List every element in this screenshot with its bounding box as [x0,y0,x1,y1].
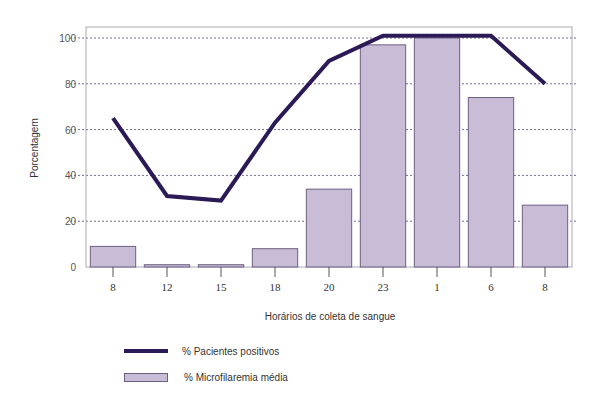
bar [414,38,459,267]
combo-chart: 020406080100 81215182023168 Porcentagem … [0,0,602,330]
y-tick-label: 100 [59,33,76,44]
bar [90,246,135,267]
bar-series [90,38,567,267]
bar [198,265,243,267]
x-axis-title: Horários de coleta de sangue [265,311,396,322]
x-tick-label: 8 [110,281,116,293]
legend-line-label: % Pacientes positivos [182,346,279,357]
y-axis-title: Porcentagem [29,118,40,177]
bar-swatch-icon [124,373,168,382]
bar [306,189,351,267]
x-tick-label: 18 [270,281,282,293]
legend: % Pacientes positivos % Microfilaremia m… [124,344,288,396]
bar [468,98,513,267]
x-tick-label: 1 [434,281,440,293]
line-swatch-icon [124,349,168,353]
y-tick-label: 40 [65,170,77,181]
x-tick-label: 6 [488,281,494,293]
x-axis-ticks: 81215182023168 [110,267,548,293]
bar [360,45,405,267]
y-tick-label: 0 [70,262,76,273]
y-tick-label: 80 [65,79,77,90]
y-tick-label: 20 [65,216,77,227]
y-tick-label: 60 [65,125,77,136]
x-tick-label: 20 [324,281,336,293]
bar [144,265,189,267]
x-tick-label: 12 [162,281,173,293]
x-tick-label: 23 [378,281,390,293]
bar [252,249,297,267]
x-tick-label: 15 [216,281,228,293]
legend-item-line: % Pacientes positivos [124,344,288,358]
legend-item-bar: % Microfilaremia média [124,370,288,384]
bar [522,205,567,267]
legend-bar-label: % Microfilaremia média [184,372,288,383]
x-tick-label: 8 [542,281,548,293]
y-axis-ticks: 020406080100 [59,33,76,273]
